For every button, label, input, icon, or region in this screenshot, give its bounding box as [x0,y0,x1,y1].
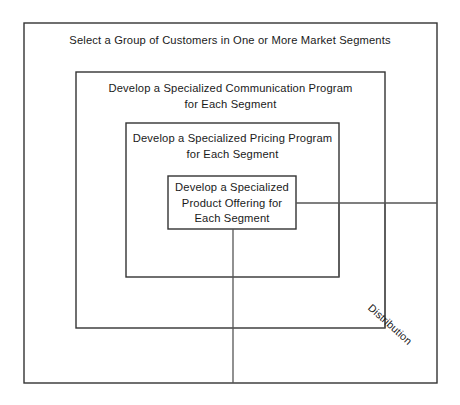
customer-group-box-label: Select a Group of Customers in One or Mo… [0,33,460,49]
diagram-canvas: Select a Group of Customers in One or Mo… [0,0,460,405]
pricing-program-box-label: Develop a Specialized Pricing Program fo… [126,131,339,162]
communication-program-box-label: Develop a Specialized Communication Prog… [76,81,385,112]
product-offering-box-label: Develop a Specialized Product Offering f… [168,180,296,227]
